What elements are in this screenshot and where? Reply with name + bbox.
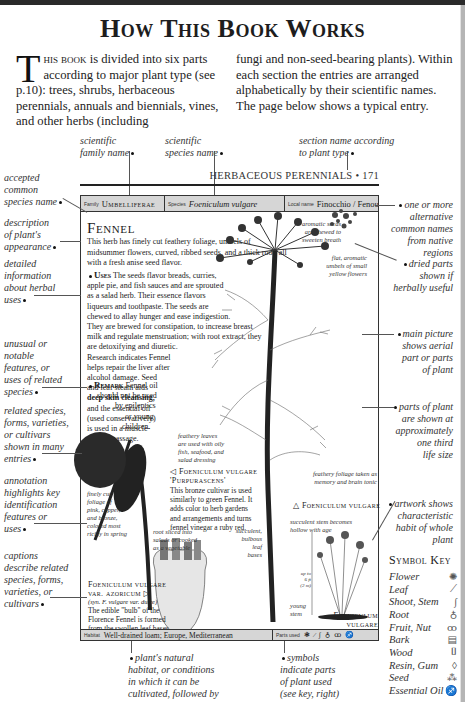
flower-icon: ✺ [449,571,457,582]
purpurascens-body: This bronze cultivar is usedsimilarly to… [170,486,252,532]
fruit-icon: ꝏ [447,622,457,633]
local-name-value: Finocchio / Fenouil [317,199,378,209]
leader-line [42,387,87,388]
anno-alt-names: one or morealternativecommon namesfrom n… [380,199,453,259]
seed-icon: ꝏ [334,631,341,639]
anno-dried-parts: dried partsshown ifherbally useful [380,258,453,294]
anno-scale: parts of plantare shown atapproximatelyo… [380,401,453,461]
symbol-key: Flower✺ Leaf⟋ Shoot, Stem∫ Root♁ Fruit, … [389,570,457,697]
anno-related: related species,forms, varieties,or cult… [4,405,69,465]
family-cell: Family Umbelliferae [81,196,165,211]
symbol-key-item: Leaf⟋ [389,583,457,596]
leader-line [347,151,348,170]
page-edge [461,5,465,702]
local-name-cell: Local name Finocchio / Fenouil [285,196,378,211]
essential-oil-icon: ♐ [445,685,457,696]
root-icon: ♁ [450,609,457,620]
intro-lead: his book [43,52,86,66]
anno-family-name: scientificfamily name [80,135,136,159]
parts-used-cell: Parts used ❃ ⁄ ∫ ♁ ꝏ ♐ [273,630,378,640]
purpurascens-title-2: 'Purpurascens' [170,476,226,485]
anno-unusual: unusual ornotablefeatures, oruses of rel… [4,338,62,398]
habit-caption: Foeniculumvulgare [333,611,378,629]
bark-icon: ▤ [448,634,457,645]
species-value: Foeniculum vulgare [189,199,257,209]
leaf-icon: ⁄ [314,631,315,639]
callout-height: up to6 ft(2 m) [293,571,311,589]
azoricum-title-2: var. azoricum ▷ [88,589,150,598]
leaf-icon: ⟋ [450,583,457,595]
habitat-value: Well-drained loam; Europe, Mediterranean [104,631,233,640]
stem-icon: ∫ [319,631,321,639]
leader-line [34,523,87,524]
section-header: HERBACEOUS PERENNIALS • 171 [80,170,379,181]
anno-annotation: annotationhighlights keyidentificationfe… [4,475,60,535]
symbol-key-title: Symbol Key [389,553,451,568]
callout-seeds: aromatic seedsare chewed tosweeten breat… [281,220,341,244]
herb-name: Fennel [87,220,135,237]
top-border [0,0,465,5]
anno-habitat: plant's naturalhabitat, or conditionsin … [128,652,219,702]
anno-common-name: acceptedcommonspecies name [4,172,64,208]
symbol-key-item: Bark▤ [389,633,457,646]
page-title: How This Book Works [0,14,465,44]
leader-line [42,453,82,454]
callout-young-stem: youngstem [290,602,306,618]
intro-column-2: fungi and non-seed-bearing plants). With… [236,52,454,114]
intro-column-1: This book is divided into six parts acco… [16,52,231,130]
callout-bronze-foliage: finely cutfoliage ofpink, copper,and bro… [87,490,127,538]
essential-oil-icon: ♐ [345,631,354,639]
symbol-key-item: Shoot, Stem∫ [389,595,457,608]
remark-section: Remark Fennel oil should not be used by … [87,380,158,432]
callout-umbels: flat, aromaticumbels of smallyellow flow… [305,254,367,278]
symbol-key-item: Fruit, Nutꝏ [389,621,457,634]
leader-line [362,407,394,408]
anno-appearance: descriptionof plant'sappearance [4,217,58,253]
vulgare-label: △ Foeniculum vulgare [293,501,380,510]
symbol-key-item: Essential Oil♐ [389,684,457,697]
anno-herbal-uses: detailedinformationabout herbaluses [4,258,55,306]
leader-line [362,334,394,335]
azoricum-syn: (syn. F. vulgare var. dulce) [88,598,157,606]
symbol-key-item: Seed⁂ [389,672,457,685]
species-cell: Species Foeniculum vulgare [165,196,285,211]
root-icon: ♁ [325,631,330,639]
callout-leaves: feathery leavesare used with oilyfish, s… [178,432,224,464]
leader-line [34,295,81,296]
wood-icon: ⌷ [451,646,457,658]
callout-stem: succulent stem becomeshollow with age [290,518,352,534]
anno-species-name: scientificspecies name [165,135,225,159]
stem-icon: ∫ [454,596,457,607]
drop-cap: T [16,54,40,84]
habitat-bar: Habitat Well-drained loam; Europe, Medit… [80,629,379,641]
anno-symbols: symbolsindicate partsof plant used(see k… [280,652,339,700]
seed-icon: ⁂ [447,672,457,683]
callout-foliage-tonic: feathery foliage taken asmemory and brai… [290,470,377,486]
symbol-key-item: Resin, Gum◊ [389,659,457,672]
purpurascens-title: ◁ Foeniculum vulgare [170,467,257,476]
page-edge-inner [460,5,461,702]
section-rule [80,184,379,186]
leader-line [60,241,81,242]
family-value: Umbelliferae [102,199,155,209]
habitat-cell: Habitat Well-drained loam; Europe, Medit… [81,630,273,640]
symbol-key-item: Wood⌷ [389,646,457,659]
symbol-key-item: Root♁ [389,608,457,621]
azoricum-title: Foeniculum vulgare [88,580,166,589]
leader-line [50,597,87,598]
anno-main-picture: main pictureshows aerialpart or partsof … [380,328,453,376]
resin-icon: ◊ [452,660,457,671]
symbol-key-item: Flower✺ [389,570,457,583]
flower-icon: ❃ [304,631,310,639]
anno-captions: captionsdescribe relatedspecies, forms,v… [4,550,68,610]
